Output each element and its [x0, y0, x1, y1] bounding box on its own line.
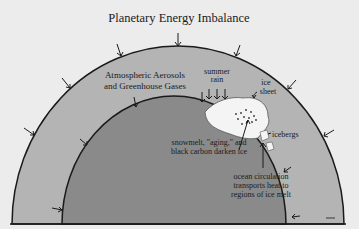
snowmelt-label-line2: black carbon darken ice — [171, 147, 248, 156]
ocean-label-line2: transports heat to — [233, 181, 288, 190]
atmosphere-label-line2: and Greenhouse Gases — [104, 81, 186, 91]
ice-sheet-label-line2: sheet — [260, 87, 277, 96]
energy-imbalance-diagram: Planetary Energy Imbalance Atmospheric A… — [0, 0, 359, 229]
diagram-title: Planetary Energy Imbalance — [108, 11, 250, 25]
ice-sheet-label-line1: ice — [261, 78, 271, 87]
summer-rain-label-line2: rain — [211, 75, 223, 84]
icebergs-label: icebergs — [272, 130, 299, 139]
snowmelt-label-line1: snowmelt, "aging," and — [172, 138, 247, 147]
ocean-label-line3: regions of ice melt — [231, 190, 292, 199]
ocean-label-line1: ocean circulation — [234, 172, 289, 181]
atmosphere-label-line1: Atmospheric Aerosols — [105, 70, 186, 80]
